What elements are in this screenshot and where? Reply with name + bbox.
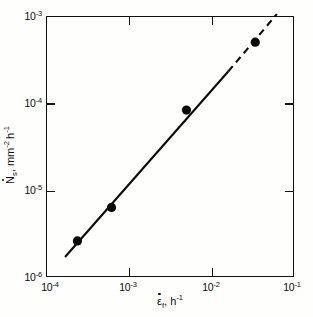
x-axis-unit-exponent: -1: [176, 293, 183, 302]
tick-x-top-1e-2: [212, 17, 214, 25]
ytick-label-1e-5: 10-5: [18, 184, 42, 196]
xtick-label-1e-1: 10-1: [283, 281, 301, 293]
tick-y-right-1e-5: [285, 191, 293, 193]
x-axis-symbol: ε: [157, 295, 162, 307]
xtick-label-1e-3: 10-3: [119, 281, 137, 293]
figure-container: 10-4 10-3 10-2 10-1 10-3 10-4 10-5 10-6 …: [0, 0, 313, 317]
tick-x-bottom-1e-3: [129, 268, 131, 276]
tick-x-top-1e-3: [129, 17, 131, 25]
plot-frame: [46, 16, 294, 277]
xtick-label-1e-4: 10-4: [41, 281, 59, 293]
y-axis-title: Ns, mm-2 h-1: [4, 126, 16, 184]
y-axis-unit1-base: mm: [4, 148, 16, 166]
y-axis-symbol: N: [4, 176, 16, 184]
tick-y-right-1e-4: [285, 103, 293, 105]
tick-x-bottom-1e-2: [212, 268, 214, 276]
y-axis-unit2-base: h: [4, 133, 16, 139]
tick-y-left-1e-5: [47, 191, 55, 193]
ytick-label-1e-4: 10-4: [18, 97, 42, 109]
tick-y-left-1e-4: [47, 103, 55, 105]
y-axis-unit2-exponent: -1: [2, 126, 11, 133]
y-axis-separator: ,: [4, 166, 16, 172]
ytick-label-1e-6: 10-6: [18, 271, 42, 283]
ytick-label-1e-3: 10-3: [18, 10, 42, 22]
y-axis-unit1-exponent: -2: [2, 141, 11, 148]
x-axis-title: εf, h-1: [157, 295, 183, 307]
xtick-label-1e-2: 10-2: [202, 281, 220, 293]
